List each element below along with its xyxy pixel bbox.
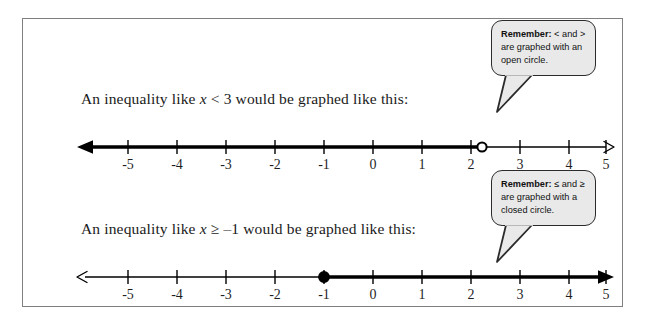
callout-bubble-closed-circle: Remember: ≤ and ≥ are graphed with a clo… <box>491 170 596 226</box>
tick-label: -1 <box>318 287 330 303</box>
statement-2-relation: ≥ –1 <box>207 220 240 237</box>
tick-label: -4 <box>171 287 183 303</box>
tick-label: 1 <box>419 157 426 173</box>
statement-1-suffix: would be graphed like this: <box>232 90 409 107</box>
left-arrowhead-1 <box>77 140 93 154</box>
tick-label: -2 <box>269 157 281 173</box>
inequality-statement-2: An inequality like x ≥ –1 would be graph… <box>81 220 416 238</box>
tick-label: -3 <box>220 287 232 303</box>
number-line-2-graphic <box>73 265 618 289</box>
figure-root: An inequality like x < 3 would be graphe… <box>0 0 645 324</box>
tick-label: 4 <box>566 287 573 303</box>
statement-2-suffix: would be graphed like this: <box>239 220 416 237</box>
number-line-2: -5 -4 -3 -2 -1 0 1 2 3 4 5 <box>73 265 618 311</box>
callout-bubble-open-circle: Remember: < and > are graphed with an op… <box>491 20 596 76</box>
tick-label: -3 <box>220 157 232 173</box>
tick-label: 0 <box>370 157 377 173</box>
tick-label: 2 <box>468 157 475 173</box>
tick-label: 5 <box>603 157 610 173</box>
number-line-1-graphic <box>73 135 618 159</box>
callout-2-lead: Remember: <box>501 179 552 189</box>
statement-1-variable: x <box>200 90 207 107</box>
tick-label: -5 <box>122 157 134 173</box>
statement-1-prefix: An inequality like <box>81 90 200 107</box>
tick-label: 3 <box>517 287 524 303</box>
tick-label: -2 <box>269 287 281 303</box>
statement-2-prefix: An inequality like <box>81 220 200 237</box>
tick-label: -4 <box>171 157 183 173</box>
tick-label: 1 <box>419 287 426 303</box>
open-circle-endpoint-1 <box>477 142 486 151</box>
statement-1-relation: < 3 <box>207 90 232 107</box>
tick-labels-2: -5 -4 -3 -2 -1 0 1 2 3 4 5 <box>73 287 618 309</box>
callout-1-lead: Remember: <box>501 29 552 39</box>
tick-label: -1 <box>318 157 330 173</box>
closed-circle-endpoint-2 <box>319 272 329 282</box>
tick-label: 2 <box>468 287 475 303</box>
statement-2-variable: x <box>200 220 207 237</box>
tick-label: -5 <box>122 287 134 303</box>
tick-label: 0 <box>370 287 377 303</box>
inequality-statement-1: An inequality like x < 3 would be graphe… <box>81 90 408 108</box>
tick-label: 5 <box>603 287 610 303</box>
